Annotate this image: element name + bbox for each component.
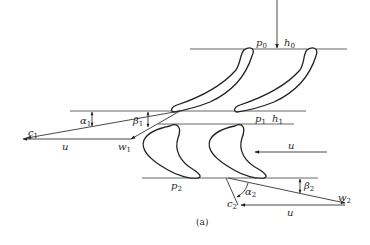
label-p0: p0	[256, 37, 267, 50]
label-beta2: β2	[303, 180, 314, 193]
label-u2: u	[287, 207, 293, 218]
label-alpha2: α2	[245, 186, 256, 199]
label-h0: h0	[284, 37, 295, 50]
label-u1: u	[62, 141, 68, 152]
label-p2: p2	[171, 180, 182, 193]
label-alpha1: α1	[80, 115, 91, 128]
turbine-stage-diagram: p0 h0 p1 h1 p2 α1 β1 c1 u w1 u α2 β2 c2 …	[0, 0, 370, 245]
label-c1: c1	[28, 127, 38, 140]
diagram-canvas: p0 h0 p1 h1 p2 α1 β1 c1 u w1 u α2 β2 c2 …	[0, 0, 370, 245]
rotor-blade-2	[209, 125, 266, 178]
rotor-blade-1	[143, 125, 200, 178]
figure-caption: (a)	[196, 217, 208, 227]
label-beta1: β1	[132, 115, 143, 128]
label-rotor-u: u	[288, 140, 294, 151]
nozzle-blade-1	[172, 48, 254, 112]
label-w1: w1	[118, 141, 131, 154]
